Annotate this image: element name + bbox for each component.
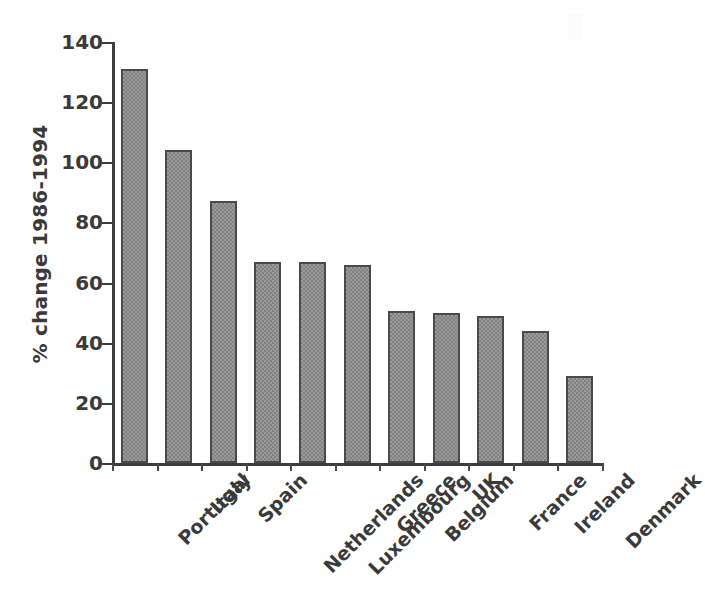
y-tick-label: 100: [61, 152, 103, 172]
y-tick-label: 0: [89, 453, 103, 473]
y-tick-label: 60: [75, 273, 103, 293]
y-tick-label: 120: [61, 92, 103, 112]
bar-belgium: [388, 311, 415, 463]
x-axis-category-labels: PortugalItalySpainNetherlandsLuxembourgG…: [112, 470, 612, 590]
y-tick-label: 140: [61, 32, 103, 52]
bar-luxembourg: [299, 262, 326, 463]
x-label-italy: Italy: [207, 470, 254, 517]
bar-portugal: [121, 69, 148, 463]
y-axis-title: % change 1986-1994: [28, 34, 52, 454]
y-tick-label: 80: [75, 212, 103, 232]
bar-uk: [433, 313, 460, 463]
bar-france: [477, 316, 504, 463]
bar-netherlands: [254, 262, 281, 463]
bar-greece: [344, 265, 371, 463]
bar-spain: [210, 201, 237, 463]
scan-artifact: [568, 14, 582, 40]
y-tick-label: 40: [75, 333, 103, 353]
bar-italy: [165, 150, 192, 463]
bar-ireland: [522, 331, 549, 463]
x-axis-line: [112, 463, 602, 466]
x-label-spain: Spain: [255, 470, 311, 526]
bar-denmark: [566, 376, 593, 463]
bar-series: [112, 42, 602, 463]
y-tick-label: 20: [75, 393, 103, 413]
plot-area: 020406080100120140: [112, 42, 602, 463]
